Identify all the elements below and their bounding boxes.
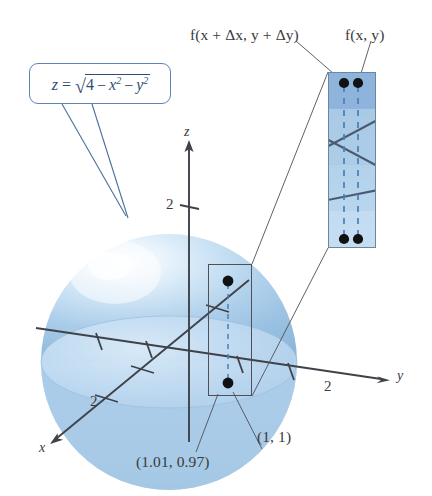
inset-point-surface-base: [353, 78, 363, 88]
label-point-base: (1, 1): [257, 428, 291, 446]
equation-equals: =: [62, 76, 71, 94]
radicand-y-exponent: 2: [143, 75, 148, 86]
source-point-lower: [223, 378, 234, 389]
radicand-minus-2: −: [124, 77, 133, 94]
inset-point-surface-incremented: [339, 78, 349, 88]
magnified-detail-inset: [328, 72, 376, 248]
label-f-base: f(x, y): [345, 26, 384, 44]
radicand-minus-1: −: [97, 77, 106, 94]
surface-equation-callout: z = √4−x2−y2: [29, 63, 171, 104]
x-axis-label: x: [39, 440, 45, 456]
inset-point-plane-incremented: [339, 234, 349, 244]
label-point-perturbed: (1.01, 0.97): [136, 453, 210, 471]
figure-root: z = √4−x2−y2 f(x + Δx, y + Δy) f(x, y) (…: [0, 0, 432, 496]
radicand: 4−x2−y2: [85, 74, 150, 94]
inset-point-plane-base: [353, 234, 363, 244]
surface-equation-text: z = √4−x2−y2: [30, 64, 172, 105]
label-f-incremented: f(x + Δx, y + Δy): [190, 26, 299, 44]
y-axis-tick-2: 2: [324, 378, 332, 395]
equation-lhs: z: [52, 76, 58, 94]
x-axis-tick-2: 2: [90, 393, 98, 410]
radicand-constant: 4: [86, 77, 94, 94]
z-axis-label: z: [184, 124, 189, 140]
y-axis-label: y: [397, 368, 403, 384]
radical-sign: √: [75, 76, 86, 96]
source-point-upper: [223, 276, 234, 287]
radicand-x-exponent: 2: [116, 75, 121, 86]
z-axis-tick-2: 2: [166, 196, 174, 213]
inset-contents: [329, 73, 376, 248]
